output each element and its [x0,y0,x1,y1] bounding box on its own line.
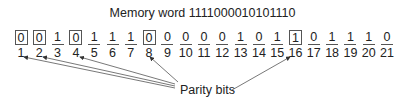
arrow-to-bit-16 [232,57,290,90]
arrow-to-bit-1 [24,57,175,88]
arrow-to-bit-4 [80,57,175,84]
parity-bits-label: Parity bits [180,83,235,97]
